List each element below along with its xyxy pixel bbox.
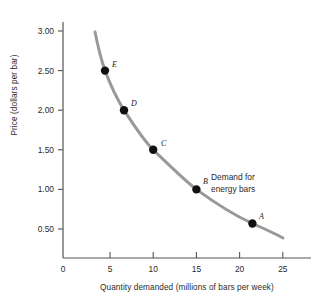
- data-point-B[interactable]: [192, 185, 200, 193]
- point-label-A: A: [259, 212, 264, 221]
- x-tick-label-20: 20: [228, 264, 252, 274]
- demand-curve-annotation: Demand for energy bars: [211, 172, 255, 195]
- demand-curve-line: [95, 32, 283, 238]
- x-axis-ticks: [110, 252, 283, 258]
- y-tick-label-3-00: 3.00: [26, 26, 54, 36]
- data-point-E[interactable]: [101, 66, 109, 74]
- data-points-group: [101, 66, 257, 227]
- y-tick-label-1-00: 1.00: [26, 184, 54, 194]
- x-tick-label-25: 25: [271, 264, 295, 274]
- y-tick-label-1-50: 1.50: [26, 145, 54, 155]
- y-tick-label-0-50: 0.50: [26, 224, 54, 234]
- x-axis-title: Quantity demanded (millions of bars per …: [63, 283, 311, 292]
- data-point-D[interactable]: [120, 106, 128, 114]
- point-label-C: C: [161, 139, 166, 148]
- point-label-D: D: [131, 99, 137, 108]
- annotation-line-2: energy bars: [211, 184, 255, 196]
- y-axis-title: Price (dollars per bar): [10, 40, 19, 150]
- annotation-line-1: Demand for: [211, 172, 255, 184]
- y-tick-label-2-50: 2.50: [26, 66, 54, 76]
- x-tick-label-15: 15: [184, 264, 208, 274]
- demand-curve-chart: Price (dollars per bar) Quantity demande…: [0, 0, 321, 308]
- data-point-C[interactable]: [149, 146, 157, 154]
- x-tick-label-10: 10: [141, 264, 165, 274]
- point-label-B: B: [203, 177, 208, 186]
- y-axis-ticks: [58, 31, 63, 229]
- x-tick-label-5: 5: [98, 264, 122, 274]
- y-tick-label-2-00: 2.00: [26, 105, 54, 115]
- data-point-A[interactable]: [248, 219, 256, 227]
- x-tick-label-0: 0: [51, 264, 75, 274]
- point-label-E: E: [112, 60, 117, 69]
